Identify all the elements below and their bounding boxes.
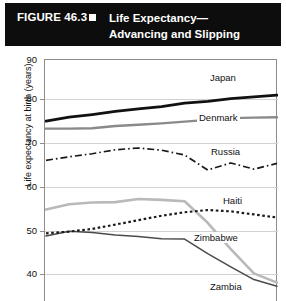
series-lines [45,60,278,301]
series-label-russia: Russia [209,146,242,157]
series-line-denmark [46,117,277,128]
figure-title-line2: Advancing and Slipping [109,27,240,41]
series-label-zimbabwe: Zimbabwe [192,232,240,243]
series-line-zambia [46,231,277,286]
plot-area: Japan Denmark Russia Haiti Zimbabwe Zamb… [44,59,277,301]
series-label-denmark: Denmark [197,112,240,123]
series-line-russia [46,148,277,170]
series-label-japan: Japan [208,72,238,83]
figure-title-line1: Life Expectancy— [109,11,208,25]
series-label-haiti: Haiti [221,195,244,206]
y-tick-90: 90 [11,54,37,65]
y-tick-50: 50 [11,225,37,236]
y-tick-70: 70 [11,137,37,148]
figure-banner: FIGURE 46.3 Life Expectancy— Advancing a… [5,3,281,46]
series-line-haiti [46,210,277,233]
figure-container: FIGURE 46.3 Life Expectancy— Advancing a… [0,0,286,301]
y-tick-40: 40 [11,268,37,279]
figure-number-label: FIGURE 46.3 [17,11,87,23]
y-tick-60: 60 [11,181,37,192]
series-line-zimbabwe [46,199,277,283]
figure-number: FIGURE 46.3 [17,11,87,23]
y-tick-80: 80 [11,93,37,104]
series-label-zambia: Zambia [208,281,244,292]
square-bullet-icon [89,14,96,21]
